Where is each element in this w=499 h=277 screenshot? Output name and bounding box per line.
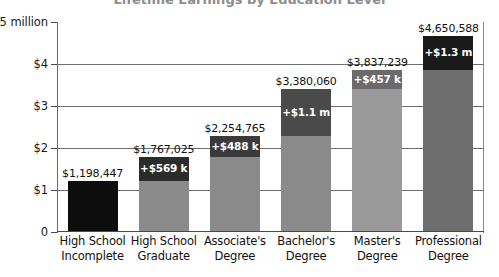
bar-segment-increment: +$1.3 m — [423, 36, 473, 70]
bar-segment-increment: +$569 k — [139, 157, 189, 181]
chart-title: Lifetime Earnings by Education Level — [0, 0, 499, 7]
bar-segment-base — [68, 181, 118, 231]
x-label-line2: Incomplete — [60, 249, 126, 264]
bar-segment-increment: +$1.1 m — [281, 89, 331, 136]
x-label-line1: High School — [131, 234, 197, 248]
bar-segment-base — [352, 89, 402, 231]
x-axis-category-label: Associate'sDegree — [204, 234, 266, 264]
increment-label: +$1.1 m — [281, 106, 331, 118]
total-value-label: $2,254,765 — [204, 122, 265, 135]
x-axis-category-label: High SchoolGraduate — [131, 234, 197, 264]
bar-associate-s-degree[interactable]: +$488 k — [210, 136, 260, 231]
x-label-line2: Degree — [277, 249, 335, 264]
y-tick-label: $5 million — [0, 15, 48, 29]
bar-professional-degree[interactable]: +$1.3 m — [423, 36, 473, 231]
chart-figure: Lifetime Earnings by Education Level 0$1… — [0, 0, 499, 277]
gridline-1 — [57, 190, 484, 191]
x-label-line1: High School — [60, 234, 126, 248]
total-value-label: $1,767,025 — [133, 143, 194, 156]
increment-label: +$457 k — [352, 73, 402, 85]
total-value-label: $1,198,447 — [62, 167, 123, 180]
y-tick-label: 0 — [41, 225, 48, 239]
x-label-line2: Degree — [354, 249, 401, 264]
plot-border-right — [483, 22, 484, 233]
x-axis-category-label: High SchoolIncomplete — [60, 234, 126, 264]
x-label-line2: Degree — [204, 249, 266, 264]
plot-border-bottom — [57, 231, 484, 232]
total-value-label: $3,837,239 — [347, 56, 408, 69]
y-tick-label: $2 — [34, 141, 48, 155]
x-axis-category-label: Master'sDegree — [354, 234, 401, 264]
x-label-line1: Bachelor's — [277, 234, 335, 248]
chart-title-clipped: Lifetime Earnings by Education Level — [0, 0, 499, 9]
x-label-line1: Professional — [415, 234, 482, 248]
y-axis: 0$1$2$3$4$5 million — [0, 22, 57, 233]
bar-master-s-degree[interactable]: +$457 k — [352, 70, 402, 231]
bar-segment-base — [139, 181, 189, 231]
total-value-label: $4,650,588 — [418, 22, 479, 35]
plot-border-left — [57, 22, 58, 233]
bar-bachelor-s-degree[interactable]: +$1.1 m — [281, 89, 331, 231]
x-axis-category-label: ProfessionalDegree — [415, 234, 482, 264]
bar-segment-increment: +$488 k — [210, 136, 260, 156]
y-tick-label: $1 — [34, 183, 48, 197]
increment-label: +$1.3 m — [423, 46, 473, 58]
x-axis-category-label: Bachelor'sDegree — [277, 234, 335, 264]
y-tick-label: $3 — [34, 99, 48, 113]
bar-segment-base — [210, 157, 260, 231]
bar-high-school-graduate[interactable]: +$569 k — [139, 157, 189, 231]
gridline-2 — [57, 148, 484, 149]
total-value-label: $3,380,060 — [276, 75, 337, 88]
bar-segment-base — [281, 136, 331, 231]
increment-label: +$569 k — [139, 162, 189, 174]
bar-segment-increment: +$457 k — [352, 70, 402, 89]
x-label-line2: Graduate — [131, 249, 197, 264]
x-label-line1: Associate's — [204, 234, 266, 248]
plot-area: +$569 k+$488 k+$1.1 m+$457 k+$1.3 m $1,1… — [57, 22, 484, 232]
gridline-3 — [57, 106, 484, 107]
increment-label: +$488 k — [210, 140, 260, 152]
x-label-line1: Master's — [354, 234, 401, 248]
x-label-line2: Degree — [415, 249, 482, 264]
gridline-4 — [57, 64, 484, 65]
y-tick-label: $4 — [34, 57, 48, 71]
bar-high-school-incomplete[interactable] — [68, 181, 118, 231]
x-axis: High SchoolIncompleteHigh SchoolGraduate… — [57, 234, 484, 277]
bar-segment-base — [423, 70, 473, 231]
